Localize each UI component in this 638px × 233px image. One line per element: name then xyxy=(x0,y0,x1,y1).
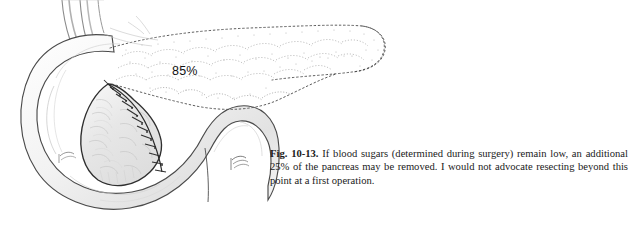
figure-caption: Fig. 10-13. If blood sugars (determined … xyxy=(270,147,628,187)
pancreatic-duct-mark-icon xyxy=(59,152,76,163)
superior-vessel-stumps-icon xyxy=(62,0,104,40)
duodenal-vessel-mark-icon xyxy=(231,156,249,170)
figure-caption-text: If blood sugars (determined during surge… xyxy=(270,148,628,186)
anatomical-illustration xyxy=(0,0,400,233)
figure-page: 85% Fig. 10-13. If blood sugars (determi… xyxy=(0,0,638,233)
figure-number-label: Fig. 10-13. xyxy=(270,148,319,159)
percent-resection-label: 85% xyxy=(172,64,198,78)
resected-pancreas-outline xyxy=(110,25,385,109)
pancreatic-head-remnant xyxy=(59,84,162,186)
